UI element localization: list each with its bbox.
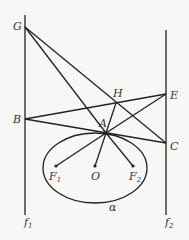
label-H: H (112, 87, 123, 100)
label-G: G (13, 20, 22, 33)
label-E: E (169, 89, 178, 102)
point-F2 (131, 164, 134, 167)
segment-GC (25, 27, 166, 143)
label-f2: f2 (164, 216, 174, 230)
label-F1: F1 (48, 170, 61, 184)
segment-AH (106, 103, 116, 133)
segment-AF2 (106, 133, 133, 166)
label-O: O (91, 170, 100, 183)
label-C: C (170, 140, 179, 153)
point-O (93, 164, 96, 167)
segment-BE (25, 94, 166, 119)
segment-AO (95, 133, 106, 166)
label-A: A (98, 117, 107, 130)
geometry-diagram: G B H E A C F1 O F2 α f1 f2 (0, 0, 189, 240)
label-alpha: α (109, 201, 117, 214)
segment-AF1 (56, 133, 106, 166)
ellipse-alpha (43, 133, 147, 203)
label-F2: F2 (128, 170, 142, 184)
label-f1: f1 (23, 216, 33, 230)
label-B: B (12, 113, 21, 126)
point-F1 (54, 164, 57, 167)
